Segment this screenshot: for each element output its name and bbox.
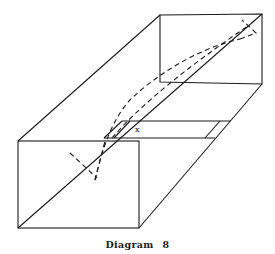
front-face [18,141,139,228]
diagram-caption: Diagram8 [0,239,275,250]
caption-word: Diagram [106,239,154,250]
dashed-cross-stroke [70,153,97,178]
dashed-return-stroke [95,141,105,180]
point-x-label: x [135,125,140,134]
dashed-curve-outer [95,39,240,180]
floor-strip-tick [114,121,130,138]
box-diagram: x [0,0,275,254]
caption-number: 8 [163,239,170,250]
